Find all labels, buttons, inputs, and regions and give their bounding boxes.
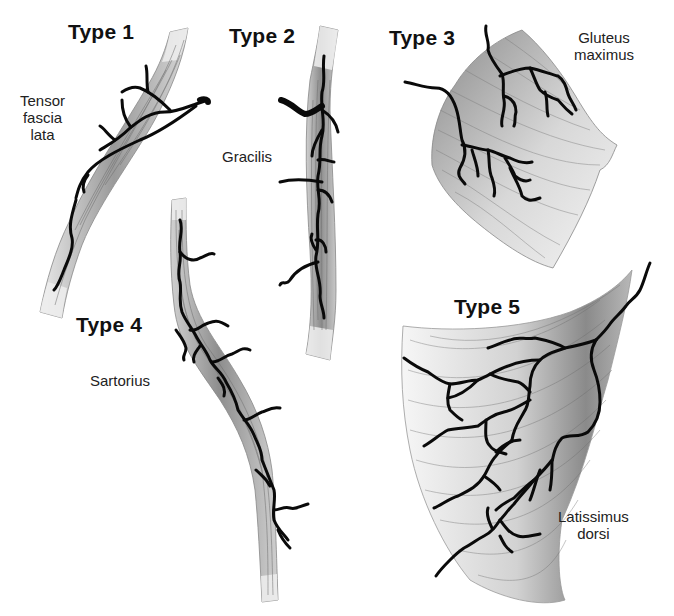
gracilis-label: Gracilis: [222, 148, 272, 165]
type-3-label: Type 3: [389, 26, 455, 50]
type-5-label: Type 5: [454, 295, 520, 319]
muscle-name-line: dorsi: [558, 525, 629, 542]
muscle-name-line: fascia: [20, 109, 65, 126]
gracilis-muscle: [280, 26, 338, 360]
latissimus-dorsi-muscle: [402, 263, 650, 603]
sartorius-label: Sartorius: [90, 372, 150, 389]
muscle-name-line: lata: [20, 126, 65, 143]
muscle-name-line: Sartorius: [90, 372, 150, 389]
muscle-name-line: Gluteus: [574, 29, 634, 46]
type-1-label: Type 1: [68, 20, 134, 44]
tensor-fascia-lata-label: Tensor fascia lata: [20, 92, 65, 143]
muscle-name-line: Tensor: [20, 92, 65, 109]
type-4-label: Type 4: [76, 313, 142, 337]
type-2-label: Type 2: [229, 24, 295, 48]
sartorius-muscle: [171, 198, 308, 602]
latissimus-dorsi-label: Latissimus dorsi: [558, 508, 629, 542]
muscle-name-line: Latissimus: [558, 508, 629, 525]
muscle-name-line: maximus: [574, 46, 634, 63]
gluteus-maximus-label: Gluteus maximus: [574, 29, 634, 63]
muscle-name-line: Gracilis: [222, 148, 272, 165]
